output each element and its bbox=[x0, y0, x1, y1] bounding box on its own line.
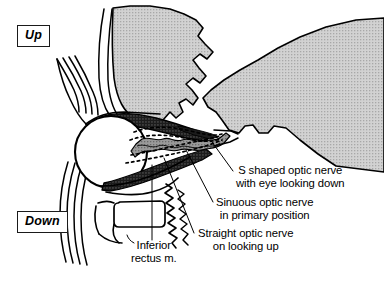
anatomical-figure: Up Down S shaped optic nerve with eye lo… bbox=[0, 0, 384, 283]
orientation-label-up: Up bbox=[17, 25, 50, 47]
callout-line-2: rectus m. bbox=[131, 252, 177, 265]
callout-line-1: S shaped optic nerve bbox=[236, 164, 344, 177]
upper-eyelid-contours bbox=[57, 56, 98, 124]
callout-line-1: Straight optic nerve bbox=[198, 227, 293, 240]
callout-straight-optic-nerve: Straight optic nerve on looking up bbox=[198, 227, 293, 254]
callout-line-2: with eye looking down bbox=[236, 177, 344, 190]
callout-line-2: on looking up bbox=[198, 240, 293, 253]
callout-line-1: Inferior bbox=[131, 239, 177, 252]
callout-line-2: in primary position bbox=[216, 209, 313, 222]
frontal-ethmoid-bone-mass bbox=[112, 6, 213, 124]
sphenoid-cranial-bone-mass bbox=[203, 18, 384, 172]
orbit-sagittal-illustration bbox=[0, 0, 384, 283]
maxillary-sinus bbox=[114, 201, 165, 227]
posterior-soft-tissue-squiggle bbox=[178, 190, 188, 245]
callout-sinuous-optic-nerve: Sinuous optic nerve in primary position bbox=[216, 196, 313, 223]
leader-s-shaped bbox=[212, 142, 233, 171]
callout-line-1: Sinuous optic nerve bbox=[216, 196, 313, 209]
orientation-label-down: Down bbox=[17, 211, 68, 233]
callout-inferior-rectus-muscle: Inferior rectus m. bbox=[131, 239, 177, 266]
callout-s-shaped-optic-nerve: S shaped optic nerve with eye looking do… bbox=[236, 164, 344, 191]
